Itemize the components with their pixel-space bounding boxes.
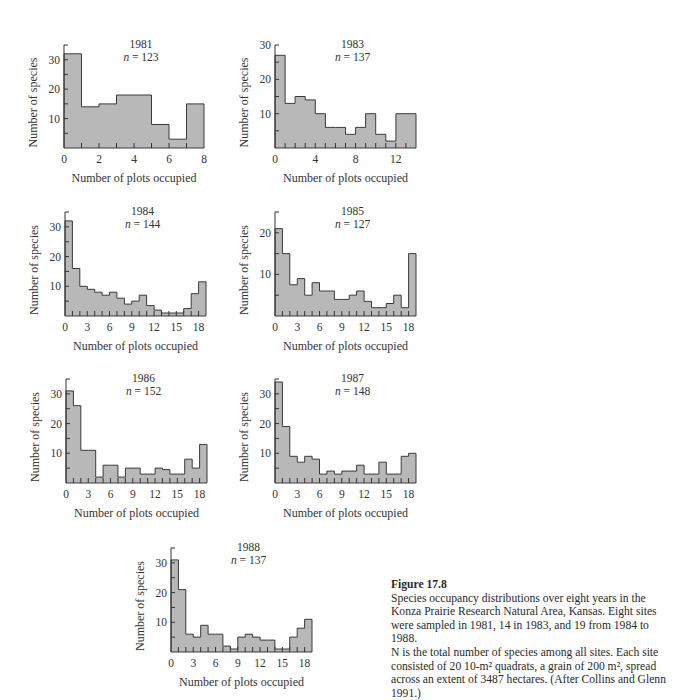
x-tick-label: 0 (168, 657, 174, 669)
x-tick-label: 18 (299, 657, 311, 669)
x-axis-label: Number of plots occupied (283, 506, 408, 520)
x-tick-label: 18 (194, 488, 206, 500)
histogram-bars (275, 382, 416, 483)
x-tick-label: 6 (317, 488, 323, 500)
caption-line: Species occupancy distributions over eig… (391, 592, 646, 605)
x-tick-label: 15 (172, 488, 184, 500)
x-tick-label: 6 (107, 321, 113, 333)
x-tick-label: 18 (403, 321, 415, 333)
x-axis-label: Number of plots occupied (179, 675, 304, 689)
x-tick-label: 12 (149, 488, 161, 500)
y-tick-label: 30 (156, 557, 168, 569)
x-tick-label: 15 (277, 657, 289, 669)
y-tick-label: 30 (260, 388, 272, 400)
y-tick-label: 20 (156, 587, 168, 599)
figure-label: Figure 17.8 (391, 578, 674, 592)
y-tick-label: 20 (51, 418, 63, 430)
x-tick-label: 9 (339, 321, 345, 333)
y-axis-label: Number of species (27, 225, 41, 315)
caption-line: were sampled in 1981, 14 in 1983, and 19… (391, 619, 649, 646)
x-tick-label: 15 (381, 488, 393, 500)
panel-year: 1987 (341, 372, 364, 384)
panel-n: n = 137 (231, 554, 266, 566)
y-tick-label: 30 (49, 54, 61, 66)
x-axis-label: Number of plots occupied (74, 506, 199, 520)
x-tick-label: 0 (272, 321, 278, 333)
y-tick-label: 30 (51, 388, 63, 400)
histogram-1981: 102030024681981n = 123Number of plots oc… (26, 21, 214, 194)
caption-line: across an extent of 3487 hectares. (Afte… (391, 673, 666, 686)
x-tick-label: 3 (294, 488, 300, 500)
histogram-bars (65, 221, 206, 316)
y-tick-label: 20 (49, 83, 61, 95)
x-tick-label: 12 (358, 321, 370, 333)
y-tick-label: 10 (260, 268, 272, 280)
y-axis-label: Number of species (26, 57, 40, 147)
x-tick-label: 18 (403, 488, 415, 500)
figure-caption: Figure 17.8 Species occupancy distributi… (391, 578, 674, 700)
y-tick-label: 10 (49, 113, 61, 125)
histogram-bars (275, 229, 416, 316)
x-tick-label: 0 (62, 321, 68, 333)
y-axis-label: Number of species (237, 57, 251, 147)
panel-year: 1988 (237, 541, 260, 553)
x-tick-label: 4 (131, 153, 137, 165)
y-tick-label: 10 (50, 280, 62, 292)
x-tick-label: 6 (317, 321, 323, 333)
x-tick-label: 3 (190, 657, 196, 669)
x-tick-label: 0 (61, 153, 67, 165)
y-tick-label: 20 (50, 251, 62, 263)
y-tick-label: 20 (260, 73, 272, 85)
x-axis-label: Number of plots occupied (73, 339, 198, 353)
y-tick-label: 30 (260, 39, 272, 51)
x-tick-label: 6 (166, 153, 172, 165)
panel-n: n = 144 (125, 218, 160, 230)
caption-line: 1991.) (391, 687, 421, 700)
x-axis-label: Number of plots occupied (283, 339, 408, 353)
caption-line: consisted of 20 10-m² quadrats, a grain … (391, 660, 656, 673)
x-tick-label: 9 (235, 657, 241, 669)
panel-n: n = 137 (335, 51, 370, 63)
panel-year: 1983 (341, 38, 364, 50)
histogram-1985: 102003691215181985n = 127Number of plots… (237, 188, 426, 362)
histogram-1987: 10203003691215181987n = 148Number of plo… (237, 355, 426, 529)
x-tick-label: 2 (96, 153, 102, 165)
x-tick-label: 9 (130, 488, 136, 500)
panel-n: n = 148 (335, 385, 370, 397)
x-tick-label: 3 (294, 321, 300, 333)
histogram-bars (275, 55, 416, 148)
x-tick-label: 15 (381, 321, 393, 333)
caption-line: N is the total number of species among a… (391, 646, 658, 659)
x-tick-label: 6 (108, 488, 114, 500)
x-tick-label: 12 (148, 321, 160, 333)
x-tick-label: 18 (193, 321, 205, 333)
y-tick-label: 20 (260, 227, 272, 239)
x-tick-label: 8 (353, 153, 359, 165)
x-tick-label: 12 (390, 153, 402, 165)
x-tick-label: 0 (63, 488, 69, 500)
y-tick-label: 10 (260, 108, 272, 120)
x-tick-label: 9 (129, 321, 135, 333)
y-axis-label: Number of species (237, 392, 251, 482)
y-axis-label: Number of species (28, 392, 42, 482)
x-tick-label: 6 (213, 657, 219, 669)
panel-n: n = 127 (335, 218, 370, 230)
histogram-bars (66, 391, 207, 483)
caption-line: Konza Prairie Research Natural Area, Kan… (391, 605, 657, 618)
x-tick-label: 0 (272, 153, 278, 165)
y-tick-label: 30 (50, 221, 62, 233)
x-tick-label: 8 (201, 153, 207, 165)
histogram-1984: 10203003691215181984n = 144Number of plo… (27, 188, 216, 362)
y-axis-label: Number of species (133, 561, 147, 651)
x-axis-label: Number of plots occupied (72, 171, 197, 185)
y-axis-label: Number of species (237, 225, 251, 315)
x-tick-label: 3 (85, 488, 91, 500)
panel-n: n = 123 (123, 51, 158, 63)
x-tick-label: 0 (272, 488, 278, 500)
panel-year: 1984 (131, 205, 154, 217)
y-tick-label: 10 (156, 616, 168, 628)
histogram-1983: 102030048121983n = 137Number of plots oc… (237, 21, 426, 194)
x-axis-label: Number of plots occupied (283, 171, 408, 185)
x-tick-label: 4 (312, 153, 318, 165)
histogram-bars (64, 54, 204, 148)
